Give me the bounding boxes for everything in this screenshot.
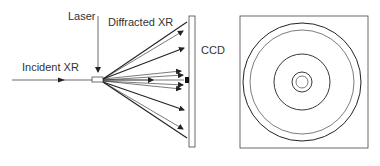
incident-beam (12, 78, 92, 83)
diffracted-xr-label: Diffracted XR (108, 17, 173, 28)
beam-stop (185, 77, 189, 83)
ccd-label: CCD (201, 45, 225, 56)
sample (92, 77, 103, 82)
ccd-detector (189, 16, 195, 147)
laser-label: Laser (68, 11, 96, 22)
diffracted-rays (103, 22, 187, 138)
diagram-graphics (0, 0, 380, 166)
detector-image (240, 16, 368, 148)
incident-xr-label: Incident XR (22, 62, 79, 73)
xray-diffraction-diagram: Laser Diffracted XR Incident XR CCD (0, 0, 380, 166)
